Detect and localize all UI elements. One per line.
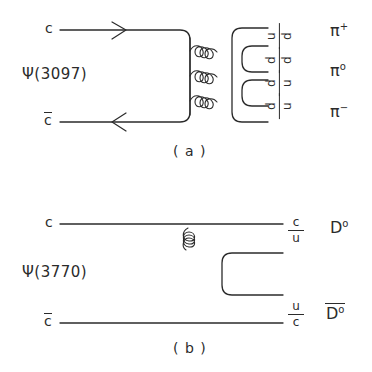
outgoing-quark-pair-1-a: u d bbox=[265, 23, 293, 49]
quark-pair-2-top-b: u bbox=[288, 300, 304, 315]
pion-minus-symbol: π bbox=[330, 102, 340, 121]
gluon-spring-diagonal-b bbox=[183, 228, 194, 250]
d-zero-bar-symbol: D bbox=[326, 304, 338, 323]
d-zero-bar-charge: o bbox=[338, 304, 344, 315]
pion-minus-charge: − bbox=[340, 102, 348, 113]
outgoing-quark-pair-2-b: u c bbox=[288, 300, 304, 328]
caption-a: ( a ) bbox=[173, 144, 206, 158]
quark-pair-1-bottom-a: d bbox=[280, 23, 294, 49]
outgoing-quark-pair-4-a: d u bbox=[265, 93, 293, 119]
hadronization-wall-a bbox=[232, 28, 268, 122]
outgoing-quark-pair-1-b: c u bbox=[288, 216, 304, 244]
resonance-label-psi-3770: Ψ(3770) bbox=[22, 265, 87, 280]
antiquark-overbar-b: c bbox=[44, 313, 52, 328]
incoming-quark-label-cbar-bottom-a: c bbox=[44, 112, 52, 127]
product-label-pion-plus: π+ bbox=[330, 22, 348, 39]
incoming-quark-label-c-top-a: c bbox=[45, 21, 53, 35]
product-label-d-zero: Do bbox=[330, 219, 348, 236]
diagram-linework bbox=[0, 0, 372, 372]
resonance-label-psi-3097: Ψ(3097) bbox=[22, 67, 87, 82]
d-zero-bar-overline: Do bbox=[326, 303, 344, 322]
feynman-diagram-figure: Ψ(3097) c c u d d d d u d u π+ πo π− ( a… bbox=[0, 0, 372, 372]
quark-pair-1-top-a: u bbox=[265, 23, 280, 49]
incoming-quark-label-c-top-b: c bbox=[45, 215, 53, 229]
pion-plus-charge: + bbox=[340, 21, 348, 32]
quark-pair-4-top-a: d bbox=[265, 93, 280, 119]
caption-b: ( b ) bbox=[173, 341, 207, 355]
quark-pair-1-bottom-b: u bbox=[288, 231, 304, 245]
quark-vertex-bracket-b bbox=[222, 253, 283, 295]
quark-pair-4-bottom-a: u bbox=[280, 93, 294, 119]
quark-pair-1-top-b: c bbox=[288, 216, 304, 231]
d-zero-charge: o bbox=[342, 218, 348, 229]
gluon-spring-3-a bbox=[190, 96, 217, 109]
incoming-quark-label-cbar-bottom-b: c bbox=[44, 313, 52, 328]
gluon-spring-1-a bbox=[190, 46, 217, 59]
pion-plus-symbol: π bbox=[330, 21, 340, 40]
product-label-pion-minus: π− bbox=[330, 103, 348, 120]
antiquark-overbar-a: c bbox=[44, 112, 52, 127]
product-label-pion-zero: πo bbox=[330, 62, 346, 79]
gluon-spring-2-a bbox=[190, 71, 217, 84]
pion-zero-charge: o bbox=[340, 61, 346, 72]
quark-pair-2-bottom-b: c bbox=[288, 315, 304, 329]
product-label-d-zero-bar: Do bbox=[326, 303, 344, 322]
d-zero-symbol: D bbox=[330, 218, 342, 237]
pion-zero-symbol: π bbox=[330, 61, 340, 80]
